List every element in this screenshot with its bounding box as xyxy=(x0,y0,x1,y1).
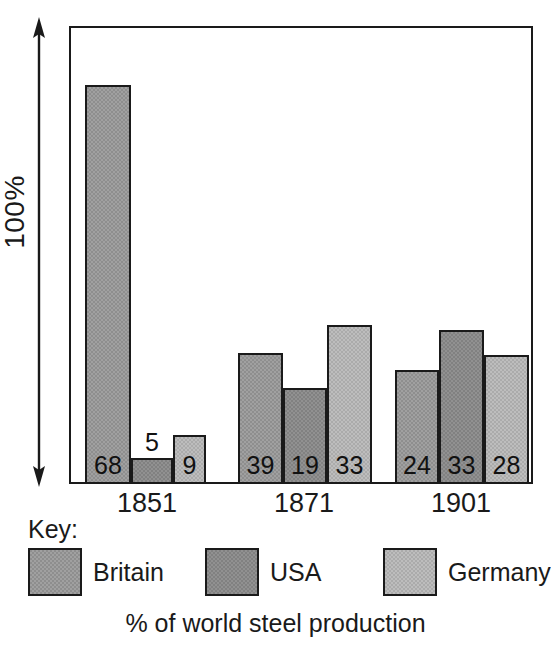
legend-label: Germany xyxy=(448,558,551,586)
bar-1871-germany: 33 xyxy=(327,325,372,484)
chart-figure: 100% 6859391933243328 185118711901 Key: … xyxy=(0,0,551,648)
bar-1901-usa: 33 xyxy=(439,330,484,484)
legend-item-germany: Germany xyxy=(383,548,551,596)
chart-caption: % of world steel production xyxy=(0,608,551,638)
bar-1901-germany: 28 xyxy=(484,355,529,484)
bar-value-label: 9 xyxy=(175,452,204,479)
y-axis-label: 100% xyxy=(0,159,31,265)
bar-1851-usa: 5 xyxy=(131,458,173,484)
x-axis-labels: 185118711901 xyxy=(69,487,533,521)
bar-1851-germany: 9 xyxy=(173,435,206,484)
legend-swatch-usa xyxy=(205,548,259,596)
legend-swatch-britain xyxy=(28,548,82,596)
bar-1901-britain: 24 xyxy=(395,370,439,484)
x-axis-tick-1871: 1871 xyxy=(234,487,374,519)
legend-item-britain: Britain xyxy=(28,548,164,596)
bar-value-label: 28 xyxy=(486,452,527,479)
bar-value-label: 5 xyxy=(133,429,171,456)
bar-value-label: 39 xyxy=(240,452,281,479)
bars-layer: 6859391933243328 xyxy=(69,26,533,484)
x-axis-tick-1901: 1901 xyxy=(391,487,531,519)
bar-value-label: 33 xyxy=(441,452,482,479)
bar-value-label: 68 xyxy=(87,452,129,479)
legend-swatch-germany xyxy=(383,548,437,596)
bar-value-label: 24 xyxy=(397,452,437,479)
bar-1871-britain: 39 xyxy=(238,353,283,484)
bar-1851-britain: 68 xyxy=(85,85,131,484)
legend-label: Britain xyxy=(93,558,164,586)
key-title: Key: xyxy=(28,515,78,543)
bar-1871-usa: 19 xyxy=(283,388,327,484)
legend: BritainUSAGermany xyxy=(28,548,528,600)
legend-label: USA xyxy=(270,558,321,586)
x-axis-tick-1851: 1851 xyxy=(77,487,217,519)
bar-value-label: 33 xyxy=(329,452,370,479)
legend-item-usa: USA xyxy=(205,548,321,596)
bar-value-label: 19 xyxy=(285,452,325,479)
